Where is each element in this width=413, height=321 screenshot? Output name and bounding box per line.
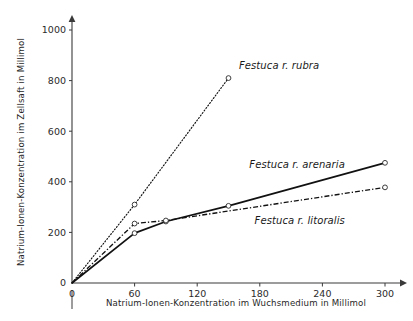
x-axis-title: Natrium-Ionen-Konzentration im Wuchsmedi… bbox=[106, 298, 366, 308]
y-tick-label-400: 400 bbox=[48, 176, 66, 187]
x-tick-label-300: 300 bbox=[376, 288, 394, 299]
data-point-festuca-r-arenaria-60 bbox=[132, 231, 137, 236]
data-point-festuca-r-rubra-60 bbox=[132, 202, 137, 207]
line-chart: 02004006008001000 060120180240300 Festuc… bbox=[0, 0, 413, 321]
y-tick-label-600: 600 bbox=[48, 126, 66, 137]
y-tick-label-800: 800 bbox=[48, 75, 66, 86]
data-point-festuca-r-rubra-150 bbox=[226, 76, 231, 81]
x-axis-arrowhead bbox=[400, 280, 407, 287]
series-labels-group: Festuca r. rubraFestuca r. arenariaFestu… bbox=[239, 60, 345, 226]
chart-container: 02004006008001000 060120180240300 Festuc… bbox=[0, 0, 413, 321]
data-point-festuca-r-litoralis-90 bbox=[164, 218, 169, 223]
series-lines-group bbox=[72, 78, 385, 283]
y-axis-tick-labels: 02004006008001000 bbox=[42, 24, 66, 288]
series-label-festuca-r-arenaria: Festuca r. arenaria bbox=[249, 159, 345, 170]
y-axis-title: Natrium-Ionen-Konzentration im Zellsaft … bbox=[16, 38, 26, 266]
data-point-festuca-r-arenaria-300 bbox=[383, 160, 388, 165]
y-axis-arrowhead bbox=[69, 15, 76, 22]
series-line-festuca-r-rubra bbox=[72, 78, 229, 283]
series-label-festuca-r-rubra: Festuca r. rubra bbox=[239, 60, 319, 71]
data-point-festuca-r-arenaria-150 bbox=[226, 203, 231, 208]
x-tick-label-0: 0 bbox=[69, 288, 75, 299]
y-tick-label-1000: 1000 bbox=[42, 24, 66, 35]
data-point-festuca-r-litoralis-300 bbox=[383, 185, 388, 190]
y-tick-label-0: 0 bbox=[60, 277, 66, 288]
y-tick-label-200: 200 bbox=[48, 227, 66, 238]
series-line-festuca-r-litoralis bbox=[72, 187, 385, 283]
data-point-festuca-r-litoralis-60 bbox=[132, 221, 137, 226]
series-label-festuca-r-litoralis: Festuca r. litoralis bbox=[255, 215, 345, 226]
